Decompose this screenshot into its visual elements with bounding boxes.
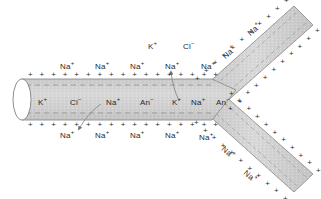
axon-vector-layer — [0, 0, 321, 199]
ion-label-cl: Cl− — [183, 42, 195, 51]
charge-plus: + — [307, 158, 312, 167]
ion-label-k: K+ — [38, 98, 47, 107]
charge-plus: + — [280, 57, 285, 66]
ion-label-na: Na+ — [106, 98, 120, 107]
charge-plus: + — [155, 120, 160, 129]
axon-diagram-figure: +++++++++++++++++ +++++++++++++++++ ++++… — [0, 0, 321, 199]
charge-plus: + — [266, 12, 271, 21]
charge-plus: + — [306, 34, 311, 43]
charge-plus: + — [275, 4, 280, 13]
charge-plus: + — [315, 26, 320, 35]
charge-plus: + — [40, 70, 45, 79]
ion-label-na: Na+ — [165, 131, 179, 140]
membrane-outer-charges-bottom: +++++++++++++++++ — [28, 120, 218, 129]
ion-label-na: Na+ — [199, 133, 213, 142]
charge-plus: + — [299, 151, 304, 160]
charge-plus: + — [121, 120, 126, 129]
ion-label-an: An− — [216, 98, 230, 107]
ion-label-na: Na+ — [130, 62, 144, 71]
charge-plus: + — [97, 70, 102, 79]
charge-plus: + — [155, 70, 160, 79]
charge-plus: + — [132, 70, 137, 79]
charge-plus: + — [213, 120, 218, 129]
charge-plus: + — [51, 70, 56, 79]
charge-plus: + — [28, 70, 33, 79]
charge-plus: + — [316, 166, 321, 175]
charge-plus: + — [265, 179, 270, 188]
charge-plus: + — [273, 128, 278, 137]
charge-plus: + — [121, 70, 126, 79]
charge-plus: + — [290, 143, 295, 152]
ion-label-k: K+ — [148, 42, 157, 51]
charge-plus: + — [167, 120, 172, 129]
charge-plus: + — [63, 120, 68, 129]
charge-plus: + — [195, 74, 200, 83]
ion-label-k: K+ — [172, 98, 181, 107]
ion-label-na: Na+ — [165, 62, 179, 71]
ion-label-na: Na+ — [60, 131, 74, 140]
charge-plus: + — [167, 70, 172, 79]
charge-plus: + — [298, 42, 303, 51]
ion-label-an: An− — [140, 98, 154, 107]
ion-label-na: Na+ — [95, 62, 109, 71]
charge-plus: + — [283, 194, 288, 199]
charge-plus: + — [63, 70, 68, 79]
charge-plus: + — [194, 118, 199, 127]
charge-plus: + — [264, 120, 269, 129]
charge-plus: + — [284, 0, 289, 5]
charge-plus: + — [274, 186, 279, 195]
axon-open-end — [13, 79, 31, 120]
charge-plus: + — [238, 97, 243, 106]
charge-plus: + — [281, 135, 286, 144]
ion-label-cl: Cl− — [70, 98, 82, 107]
charge-plus: + — [28, 120, 33, 129]
charge-plus: + — [86, 70, 91, 79]
charge-plus: + — [240, 35, 245, 44]
ion-label-na: Na+ — [60, 62, 74, 71]
charge-plus: + — [97, 120, 102, 129]
membrane-outer-charges-top: +++++++++++++++++ — [28, 70, 218, 79]
charge-plus: + — [109, 70, 114, 79]
charge-plus: + — [272, 65, 277, 74]
charge-plus: + — [263, 73, 268, 82]
charge-plus: + — [109, 120, 114, 129]
charge-plus: + — [246, 104, 251, 113]
charge-plus: + — [74, 70, 79, 79]
ion-label-na: Na+ — [191, 98, 205, 107]
charge-plus: + — [74, 120, 79, 129]
charge-plus: + — [179, 70, 184, 79]
charge-plus: + — [144, 120, 149, 129]
charge-plus: + — [132, 120, 137, 129]
ion-label-na: Na+ — [95, 131, 109, 140]
charge-plus: + — [245, 88, 250, 97]
charge-plus: + — [289, 49, 294, 58]
charge-plus: + — [40, 120, 45, 129]
charge-plus: + — [255, 112, 260, 121]
charge-plus: + — [179, 120, 184, 129]
charge-plus: + — [254, 81, 259, 90]
ion-label-na: Na+ — [130, 131, 144, 140]
charge-plus: + — [51, 120, 56, 129]
charge-plus: + — [239, 156, 244, 165]
ion-label-na: Na+ — [201, 62, 215, 71]
charge-plus: + — [86, 120, 91, 129]
charge-plus: + — [213, 70, 218, 79]
charge-plus: + — [144, 70, 149, 79]
